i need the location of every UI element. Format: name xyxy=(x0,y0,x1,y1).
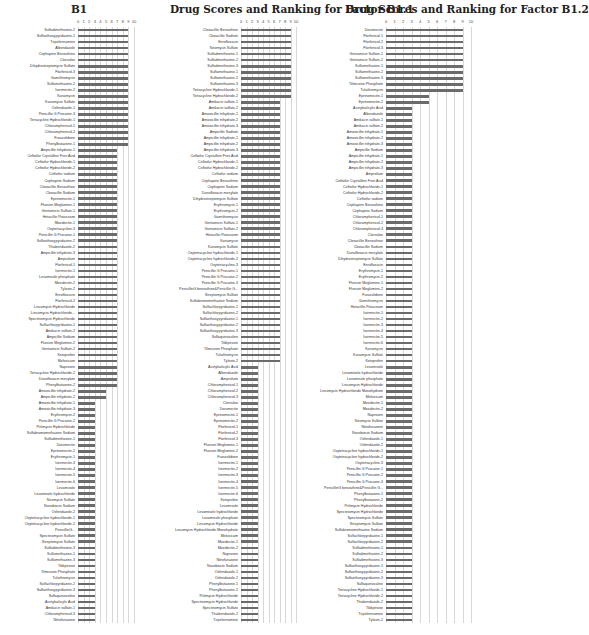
bar xyxy=(241,534,258,537)
bar xyxy=(386,300,412,303)
bar xyxy=(241,258,280,261)
bar xyxy=(241,276,280,279)
bar xyxy=(78,59,128,62)
bar xyxy=(241,215,280,218)
category-label: Tylosin-2 xyxy=(369,617,383,623)
x-tick-label: 5 xyxy=(105,19,107,24)
bar xyxy=(386,312,412,315)
bar xyxy=(78,528,95,531)
bar xyxy=(386,282,412,285)
bar xyxy=(241,155,280,158)
bar xyxy=(241,221,280,224)
bar xyxy=(78,402,95,405)
bar xyxy=(241,336,280,339)
bar xyxy=(78,149,117,152)
bar xyxy=(78,432,95,435)
bar xyxy=(78,396,106,399)
bar xyxy=(386,119,412,122)
x-tick-label: 2 xyxy=(251,19,253,24)
x-tick-label: 0 xyxy=(385,19,387,24)
x-tick-label: 9 xyxy=(289,19,291,24)
bar xyxy=(386,113,412,116)
x-tick-label: 4 xyxy=(419,19,421,24)
bar xyxy=(241,288,280,291)
bar xyxy=(241,143,280,146)
bar xyxy=(386,318,412,321)
bar xyxy=(241,191,280,194)
bar xyxy=(386,384,412,387)
bar xyxy=(241,330,280,333)
bar xyxy=(386,583,412,586)
bar xyxy=(386,137,412,140)
bar xyxy=(78,137,128,140)
bar xyxy=(386,258,412,261)
bar xyxy=(241,384,258,387)
bar xyxy=(386,619,412,622)
bar xyxy=(78,167,117,170)
bar xyxy=(78,571,95,574)
bar xyxy=(241,480,258,483)
bar xyxy=(78,444,95,447)
plot-area: Cloxacillin BenzathineCloxacillin Sodium… xyxy=(241,27,296,623)
bar xyxy=(386,185,412,188)
bar xyxy=(78,95,128,98)
bar xyxy=(78,577,95,580)
bar xyxy=(241,167,280,170)
bar xyxy=(386,191,412,194)
bar xyxy=(386,336,412,339)
bar xyxy=(241,77,291,80)
x-tick-label: 1 xyxy=(82,19,84,24)
bar xyxy=(386,438,412,441)
bar xyxy=(386,408,412,411)
bar xyxy=(78,547,95,550)
bar xyxy=(241,95,291,98)
bar xyxy=(241,306,280,309)
bar xyxy=(78,71,128,74)
x-tick-label: 3 xyxy=(410,19,412,24)
chart-title: Drug Scores and Ranking for Factor B1.2 xyxy=(345,3,589,15)
bar xyxy=(78,486,95,489)
bar xyxy=(386,534,412,537)
x-tick-label: 4 xyxy=(262,19,264,24)
bar xyxy=(78,101,128,104)
bar xyxy=(78,342,117,345)
bar xyxy=(386,143,412,146)
bar xyxy=(386,41,463,44)
bar xyxy=(78,607,95,610)
bar xyxy=(241,29,291,32)
bar xyxy=(78,53,128,56)
bar xyxy=(241,426,258,429)
bar xyxy=(241,414,258,417)
bar xyxy=(386,474,412,477)
bar xyxy=(386,426,412,429)
bar xyxy=(241,553,258,556)
x-tick-label: 7 xyxy=(278,19,280,24)
bar xyxy=(241,35,291,38)
bar xyxy=(241,619,258,622)
bar xyxy=(241,137,280,140)
bar xyxy=(386,480,412,483)
bar xyxy=(241,233,280,236)
bar xyxy=(241,252,280,255)
bar xyxy=(386,510,412,513)
bar xyxy=(78,360,117,363)
bar xyxy=(241,498,258,501)
bar xyxy=(386,233,412,236)
x-tick-label: 10 xyxy=(294,19,298,24)
bar xyxy=(78,209,117,212)
bar xyxy=(78,504,95,507)
bar xyxy=(241,227,280,230)
bar xyxy=(78,125,128,128)
bar xyxy=(78,601,95,604)
bar xyxy=(241,119,280,122)
bar xyxy=(78,143,128,146)
bar xyxy=(78,107,128,110)
bar xyxy=(386,378,412,381)
bar xyxy=(78,468,95,471)
bar xyxy=(386,468,412,471)
bar xyxy=(241,113,280,116)
bar xyxy=(241,264,280,267)
x-tick-label: 7 xyxy=(116,19,118,24)
bar xyxy=(386,89,463,92)
bar xyxy=(78,553,95,556)
